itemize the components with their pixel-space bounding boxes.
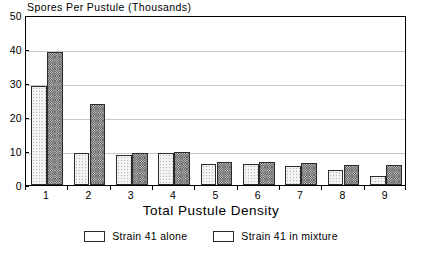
- legend-swatch-light: [84, 231, 105, 242]
- chart-title: Spores Per Pustule (Thousands): [27, 1, 191, 13]
- bar-strain-41-in-mixture-1: [47, 52, 63, 185]
- bar-strain-41-alone-2: [74, 153, 90, 185]
- legend-label: Strain 41 in mixture: [241, 230, 337, 242]
- x-tick-label: 6: [243, 189, 273, 201]
- x-tick-label: 9: [370, 189, 400, 201]
- legend-swatch-dark: [213, 231, 234, 242]
- bar-strain-41-alone-1: [31, 86, 47, 185]
- y-tick-label: 20: [2, 113, 22, 123]
- y-tick-label: 10: [2, 147, 22, 157]
- chart-legend: Strain 41 aloneStrain 41 in mixture: [0, 230, 422, 242]
- bar-strain-41-alone-7: [285, 166, 301, 185]
- y-tick-label: 30: [2, 79, 22, 89]
- y-tick-label: 0: [2, 181, 22, 191]
- bar-strain-41-alone-3: [116, 155, 132, 185]
- y-axis-tick-labels: 01020304050: [0, 16, 22, 186]
- bar-strain-41-alone-8: [328, 170, 344, 185]
- x-tick-label: 2: [74, 189, 104, 201]
- bar-strain-41-in-mixture-8: [344, 165, 360, 185]
- bar-strain-41-in-mixture-6: [259, 162, 275, 185]
- bar-strain-41-in-mixture-9: [386, 165, 402, 185]
- bars-layer: [26, 17, 405, 185]
- y-tick-label: 50: [2, 11, 22, 21]
- x-axis-title: Total Pustule Density: [0, 203, 422, 218]
- y-tick-mark: [25, 16, 29, 17]
- bar-strain-41-alone-9: [370, 176, 386, 185]
- x-axis-tick-labels: 123456789: [25, 189, 406, 203]
- bar-strain-41-alone-6: [243, 164, 259, 185]
- x-tick-label: 3: [116, 189, 146, 201]
- legend-label: Strain 41 alone: [112, 230, 187, 242]
- legend-item: Strain 41 alone: [84, 230, 187, 242]
- bar-strain-41-alone-4: [158, 153, 174, 185]
- legend-item: Strain 41 in mixture: [213, 230, 337, 242]
- plot-area: [25, 16, 406, 186]
- bar-strain-41-in-mixture-3: [132, 153, 148, 185]
- x-tick-label: 1: [31, 189, 61, 201]
- y-tick-mark: [25, 84, 29, 85]
- bar-strain-41-in-mixture-2: [90, 104, 106, 185]
- y-tick-mark: [25, 50, 29, 51]
- y-axis-tick-marks: [25, 16, 31, 186]
- bar-strain-41-in-mixture-7: [301, 163, 317, 185]
- y-tick-mark: [25, 152, 29, 153]
- y-tick-mark: [25, 118, 29, 119]
- x-tick-label: 8: [328, 189, 358, 201]
- x-tick-label: 7: [285, 189, 315, 201]
- x-tick-label: 4: [158, 189, 188, 201]
- y-tick-label: 40: [2, 45, 22, 55]
- bar-chart-figure: Spores Per Pustule (Thousands) 010203040…: [0, 0, 422, 261]
- bar-strain-41-alone-5: [201, 164, 217, 185]
- bar-strain-41-in-mixture-4: [174, 152, 190, 185]
- x-tick-label: 5: [201, 189, 231, 201]
- bar-strain-41-in-mixture-5: [217, 162, 233, 185]
